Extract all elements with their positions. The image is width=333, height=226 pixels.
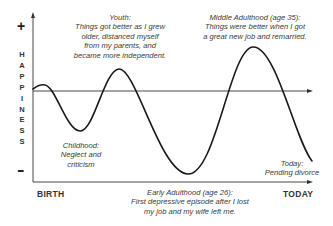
annotation-line: Neglect and <box>56 150 106 159</box>
annotation-line: from my parents, and <box>70 41 170 50</box>
y-axis-letter: P <box>17 83 27 94</box>
annotation-line: criticism <box>56 160 106 169</box>
annotation-youth: Youth: Things got better as I grew older… <box>70 13 170 60</box>
annotation-line: Things were better when I got <box>200 22 310 31</box>
annotation-title: Childhood: <box>56 141 106 150</box>
y-axis-letter: N <box>17 105 27 116</box>
y-axis-label: H A P P I N E S S <box>17 50 27 148</box>
annotation-line: older, distanced myself <box>70 32 170 41</box>
plus-sign: + <box>17 18 25 34</box>
x-axis-end-label: TODAY <box>283 189 313 199</box>
annotation-title: Early Adulthood (age 26): <box>130 188 250 197</box>
x-axis-arrow-icon <box>307 180 313 184</box>
y-axis-letter: S <box>17 126 27 137</box>
annotation-line: Pending divorce <box>262 168 322 177</box>
y-axis-letter: S <box>17 137 27 148</box>
minus-sign: - <box>17 161 24 179</box>
y-axis-letter: H <box>17 50 27 61</box>
annotation-early-adulthood: Early Adulthood (age 26): First depressi… <box>130 188 250 216</box>
y-axis-letter: E <box>17 115 27 126</box>
y-axis-letter: A <box>17 61 27 72</box>
annotation-today: Today: Pending divorce <box>262 159 322 178</box>
annotation-line: First depressive episode after I lost <box>130 197 250 206</box>
annotation-childhood: Childhood: Neglect and criticism <box>56 141 106 169</box>
annotation-title: Youth: <box>70 13 170 22</box>
annotation-title: Today: <box>262 159 322 168</box>
annotation-title: Middle Adulthood (age 35): <box>200 13 310 22</box>
annotation-line: my job and my wife left me. <box>130 207 250 216</box>
neutral-line-arrow-icon <box>307 89 313 93</box>
y-axis-letter: I <box>17 94 27 105</box>
annotation-line: Things got better as I grew <box>70 22 170 31</box>
x-axis-start-label: BIRTH <box>37 189 64 199</box>
annotation-line: a great new job and remarried. <box>200 32 310 41</box>
annotation-line: became more independent. <box>70 51 170 60</box>
y-axis-arrow-icon <box>31 12 35 18</box>
annotation-middle-adulthood: Middle Adulthood (age 35): Things were b… <box>200 13 310 41</box>
y-axis-letter: P <box>17 72 27 83</box>
